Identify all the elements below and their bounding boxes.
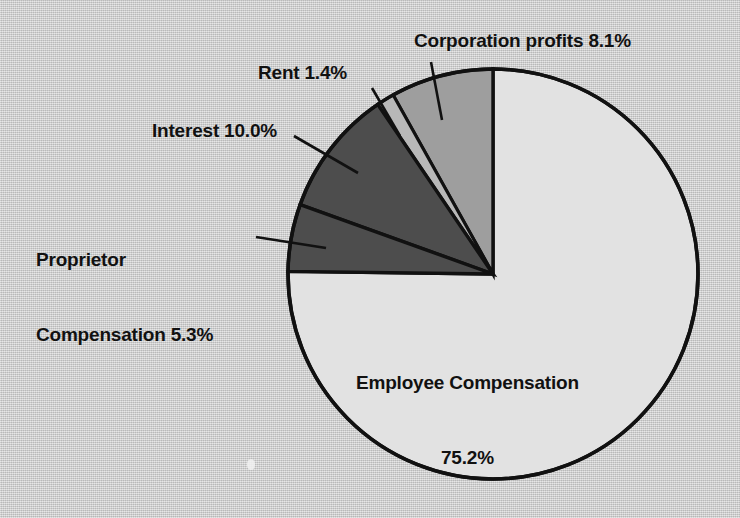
slice-label-proprietor-compensation: Proprietor Compensation 5.3% (36, 197, 213, 397)
slice-label-proprietor-line1: Proprietor (36, 247, 213, 272)
slice-label-employee-line1: Employee Compensation (356, 370, 579, 395)
slice-label-corporation-profits: Corporation profits 8.1% (414, 28, 631, 53)
slice-label-interest: Interest 10.0% (152, 118, 277, 143)
slice-label-rent: Rent 1.4% (258, 60, 347, 85)
scan-artifact-speck (247, 459, 255, 470)
chart-canvas: Corporation profits 8.1% Rent 1.4% Inter… (0, 0, 740, 518)
slice-label-employee-line2: 75.2% (356, 445, 579, 470)
slice-label-employee-compensation: Employee Compensation 75.2% (356, 320, 579, 518)
slice-label-proprietor-line2: Compensation 5.3% (36, 322, 213, 347)
